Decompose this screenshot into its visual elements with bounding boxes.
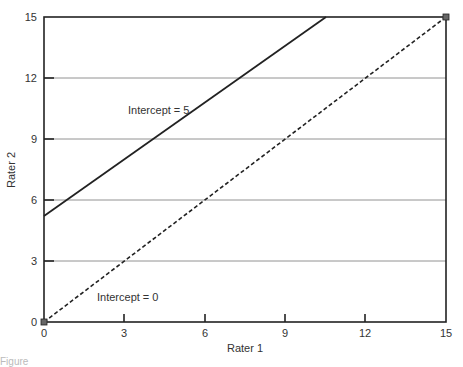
y-tick-labels: 15 12 9 6 3 0 (25, 11, 37, 328)
x-tick-15: 15 (440, 327, 452, 339)
y-tick-0: 0 (31, 316, 37, 328)
x-tick-6: 6 (202, 327, 208, 339)
x-tick-labels: 0 3 6 9 12 15 (41, 327, 452, 339)
x-tick-9: 9 (282, 327, 288, 339)
y-tick-3: 3 (31, 255, 37, 267)
y-tick-15: 15 (25, 11, 37, 23)
x-tick-0: 0 (41, 327, 47, 339)
y-tick-12: 12 (25, 72, 37, 84)
y-ticks (44, 78, 54, 261)
marker-15-15 (443, 14, 449, 20)
y-axis-label: Rater 2 (5, 152, 17, 188)
series-intercept-0-line (44, 17, 446, 322)
gridlines (44, 78, 446, 261)
annotation-intercept-0: Intercept = 0 (97, 291, 158, 303)
x-ticks (124, 314, 365, 322)
y-tick-6: 6 (31, 194, 37, 206)
annotation-intercept-5: Intercept = 5 (128, 104, 189, 116)
figure-caption: Figure (0, 356, 28, 367)
series-intercept-5-line (44, 17, 326, 216)
x-axis-label: Rater 1 (227, 342, 263, 354)
y-tick-9: 9 (31, 133, 37, 145)
x-tick-3: 3 (121, 327, 127, 339)
x-tick-12: 12 (359, 327, 371, 339)
marker-origin (41, 319, 47, 325)
